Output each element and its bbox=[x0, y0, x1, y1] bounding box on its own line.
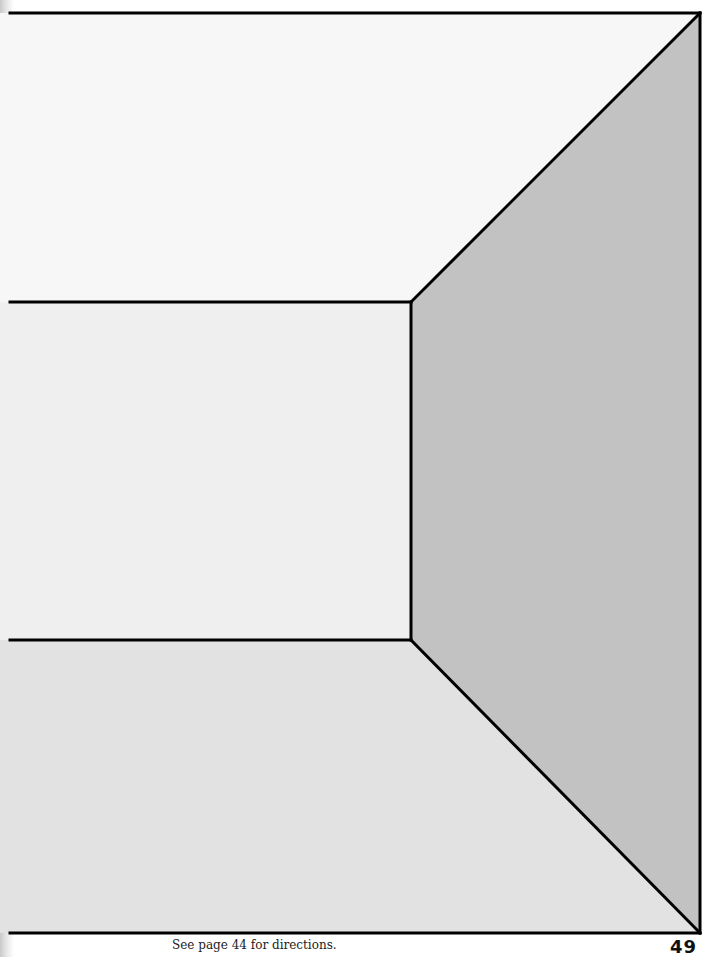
perspective-room-drawing bbox=[0, 0, 715, 957]
page-number: 49 bbox=[670, 936, 697, 957]
back-wall-region bbox=[0, 302, 411, 640]
directions-caption: See page 44 for directions. bbox=[172, 938, 337, 952]
